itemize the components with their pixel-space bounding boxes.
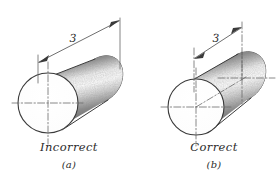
caption-b-label: Correct (190, 140, 237, 154)
panel-b-correct: 3 Correct (b) (161, 22, 275, 170)
dimension-a-value: 3 (69, 32, 76, 45)
cylinder-b (168, 52, 266, 135)
caption-a-label: Incorrect (39, 140, 98, 154)
panel-a-incorrect: 3 Incorrect (a) (12, 18, 123, 170)
caption-a-sub: (a) (62, 159, 77, 170)
arrowhead-a-left (38, 55, 49, 63)
technical-drawing-figure: 3 Incorrect (a) (0, 0, 276, 174)
figure-container: 3 Incorrect (a) (0, 0, 276, 174)
cylinder-a (18, 56, 123, 133)
caption-b-sub: (b) (206, 159, 221, 170)
arrowhead-a-right (109, 20, 120, 28)
dimension-b-value: 3 (212, 32, 219, 45)
